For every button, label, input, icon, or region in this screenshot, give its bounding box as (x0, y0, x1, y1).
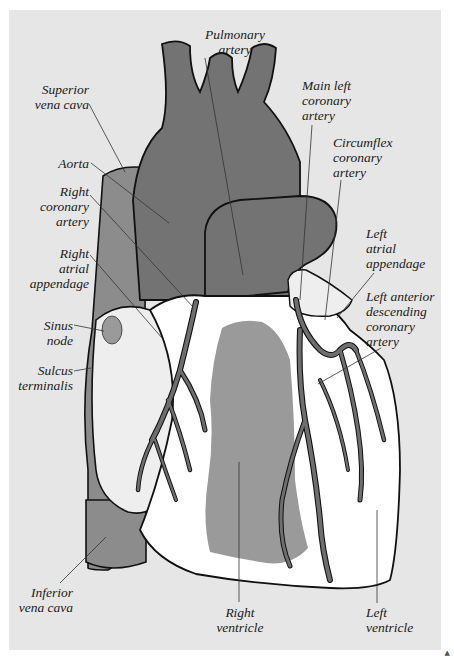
label-left-atrial-appendage: Left atrial appendage (366, 226, 425, 271)
label-right-coronary-artery: Right coronary artery (27, 184, 89, 229)
label-left-anterior-descending-coronary-artery: Left anterior descending coronary artery (366, 289, 435, 349)
label-right-atrial-appendage: Right atrial appendage (17, 246, 89, 291)
label-inferior-vena-cava: Inferior vena cava (7, 585, 73, 615)
label-main-left-coronary-artery: Main left coronary artery (302, 78, 351, 123)
label-pulmonary-artery: Pulmonary artery (205, 27, 265, 57)
corner-triangle-icon: ▲ (445, 649, 450, 657)
label-circumflex-coronary-artery: Circumflex coronary artery (333, 135, 392, 180)
label-sinus-node: Sinus node (27, 318, 73, 348)
label-left-ventricle: Left ventricle (366, 605, 413, 635)
label-right-ventricle: Right ventricle (200, 605, 280, 635)
label-superior-vena-cava: Superior vena cava (27, 82, 89, 112)
sinus-node-shape (102, 316, 122, 344)
label-aorta: Aorta (37, 156, 89, 171)
label-sulcus-terminalis: Sulcus terminalis (7, 363, 73, 393)
